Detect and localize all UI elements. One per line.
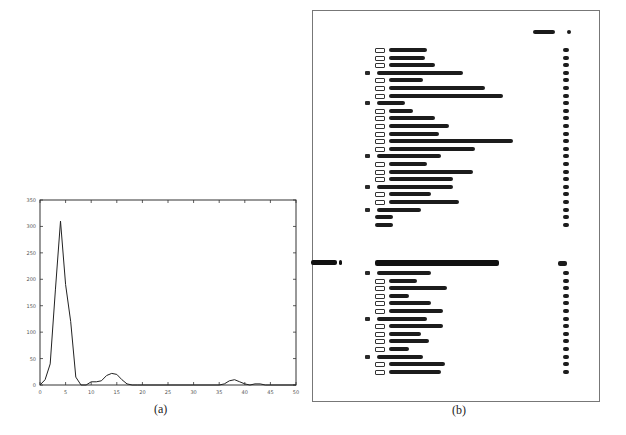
section-title — [389, 139, 513, 143]
page-number — [563, 339, 569, 343]
page-number — [563, 147, 569, 151]
chapter-page-number — [558, 261, 567, 266]
x-tick-label: 50 — [293, 389, 299, 395]
page-number — [563, 355, 569, 359]
toc-entry — [313, 300, 599, 306]
section-title — [389, 86, 485, 90]
section-title — [389, 279, 417, 283]
toc-entry — [313, 77, 599, 83]
section-number — [375, 63, 385, 68]
section-title — [377, 355, 423, 359]
x-tick-label: 45 — [267, 389, 273, 395]
section-number — [365, 317, 370, 321]
toc-entry — [313, 70, 599, 76]
page-number — [563, 223, 569, 227]
section-number — [375, 177, 385, 182]
page-number — [563, 294, 569, 298]
histogram-panel: 0510152025303540455005010015020025030035… — [0, 190, 310, 430]
table-of-contents-page — [312, 10, 600, 402]
section-number — [365, 208, 370, 212]
histogram-line — [40, 221, 296, 385]
page-number — [563, 154, 569, 158]
y-tick-label: 300 — [26, 223, 36, 229]
x-tick-label: 15 — [114, 389, 120, 395]
section-number — [375, 170, 385, 175]
section-title — [377, 185, 453, 189]
page-number — [563, 109, 569, 113]
page-number — [563, 86, 569, 90]
section-number — [375, 200, 385, 205]
section-number — [375, 301, 385, 306]
toc-entry — [313, 354, 599, 360]
section-number — [375, 332, 385, 337]
page-number — [563, 192, 569, 196]
section-number — [375, 286, 385, 291]
page-number — [563, 124, 569, 128]
toc-header-page — [567, 30, 571, 34]
section-number — [375, 370, 385, 375]
section-title — [377, 154, 441, 158]
toc-entry — [313, 161, 599, 167]
section-number — [375, 279, 385, 284]
section-number — [375, 362, 385, 367]
toc-entry — [313, 308, 599, 314]
toc-entry — [313, 222, 599, 228]
page-number — [563, 170, 569, 174]
section-number — [375, 109, 385, 114]
plot-frame — [40, 200, 296, 385]
toc-header-contents — [533, 30, 555, 34]
page-number — [563, 309, 569, 313]
y-tick-label: 50 — [30, 356, 36, 362]
page-number — [563, 301, 569, 305]
page-number — [563, 215, 569, 219]
section-title — [389, 48, 427, 52]
toc-chapter-entry — [313, 260, 599, 266]
toc-entry — [313, 47, 599, 53]
section-title — [389, 63, 435, 67]
chapter-number — [339, 260, 342, 265]
page-number — [563, 362, 569, 366]
histogram-chart: 0510152025303540455005010015020025030035… — [0, 190, 310, 410]
page-number — [563, 56, 569, 60]
section-number — [375, 78, 385, 83]
toc-entry — [313, 207, 599, 213]
section-title — [389, 301, 431, 305]
section-title — [375, 215, 393, 219]
section-title — [389, 78, 423, 82]
toc-entry — [313, 331, 599, 337]
toc-entry — [313, 191, 599, 197]
page-number — [563, 116, 569, 120]
page-number — [563, 78, 569, 82]
chapter-title — [375, 260, 499, 266]
toc-entry — [313, 214, 599, 220]
page-number — [563, 332, 569, 336]
page-number — [563, 185, 569, 189]
page-number — [563, 177, 569, 181]
section-title — [389, 162, 427, 166]
section-title — [389, 56, 425, 60]
caption-a: (a) — [154, 402, 167, 417]
section-number — [365, 154, 370, 158]
toc-entry — [313, 270, 599, 276]
page-number — [563, 162, 569, 166]
y-tick-label: 350 — [26, 197, 36, 203]
toc-entry — [313, 338, 599, 344]
section-number — [375, 86, 385, 91]
page-number — [563, 347, 569, 351]
section-number — [375, 116, 385, 121]
toc-entry — [313, 131, 599, 137]
page-number — [563, 370, 569, 374]
toc-entry — [313, 93, 599, 99]
section-number — [375, 192, 385, 197]
page-number — [563, 71, 569, 75]
toc-entry — [313, 169, 599, 175]
section-number — [365, 355, 370, 359]
section-title — [377, 271, 431, 275]
section-title — [389, 124, 449, 128]
page-number — [563, 200, 569, 204]
y-tick-label: 200 — [26, 276, 36, 282]
section-title — [389, 177, 453, 181]
section-number — [365, 101, 370, 105]
section-title — [389, 347, 409, 351]
x-tick-label: 30 — [190, 389, 196, 395]
